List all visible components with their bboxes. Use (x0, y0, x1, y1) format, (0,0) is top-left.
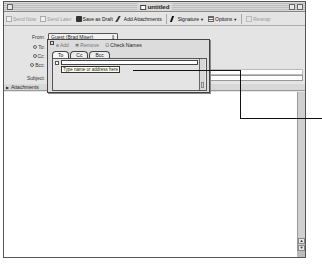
collapse-box[interactable] (297, 4, 303, 10)
rewrap-label: Rewrap (253, 16, 270, 22)
send-icon (6, 16, 12, 22)
options-label: Options (215, 16, 232, 22)
callout-line (240, 70, 241, 119)
window-title: untitled (137, 3, 173, 11)
disclosure-triangle-icon[interactable]: ▶ (6, 84, 9, 91)
add-icon (56, 44, 59, 47)
tab-cc[interactable]: Cc (70, 51, 88, 58)
address-input[interactable] (61, 60, 198, 65)
save-as-draft-label: Save as Draft (83, 16, 113, 22)
title-bar[interactable]: untitled (4, 2, 305, 12)
document-icon (140, 5, 146, 10)
person-icon (33, 54, 37, 58)
address-popup: Add ✖ Remove ⚇ Check Names To Cc Bcc Typ… (47, 39, 210, 93)
address-toolbar: Add ✖ Remove ⚇ Check Names (56, 42, 142, 48)
options-icon (208, 16, 214, 22)
to-label-text: To: (38, 44, 45, 50)
scroll-up-arrow-icon[interactable]: ▲ (298, 238, 305, 244)
callout-line (133, 70, 241, 71)
bcc-label-text: Bcc: (35, 62, 45, 68)
cc-label[interactable]: Cc: (9, 53, 45, 59)
rewrap-icon (246, 16, 252, 22)
remove-button[interactable]: ✖ Remove (75, 42, 99, 48)
person-icon (30, 63, 34, 67)
signature-button[interactable]: Signature ▼ (171, 16, 204, 22)
toolbar-divider (241, 14, 242, 24)
check-names-button[interactable]: ⚇ Check Names (105, 42, 142, 48)
signature-label: Signature (178, 16, 199, 22)
options-button[interactable]: Options ▼ (208, 16, 237, 22)
add-button[interactable]: Add (56, 42, 69, 48)
chevron-down-icon: ▼ (233, 17, 237, 22)
send-now-button[interactable]: Send Now (6, 16, 36, 22)
tab-bcc[interactable]: Bcc (89, 51, 109, 58)
toolbar: Send Now Send Later Save as Draft Add At… (4, 13, 305, 26)
vertical-scrollbar[interactable]: ▲ ▼ (297, 92, 305, 257)
send-later-icon (40, 16, 46, 22)
save-as-draft-button[interactable]: Save as Draft (76, 16, 113, 22)
address-tooltip: Type name or address here (61, 66, 120, 73)
rewrap-button[interactable]: Rewrap (246, 16, 270, 22)
tab-to[interactable]: To (52, 51, 69, 58)
subject-label: Subject: (9, 75, 45, 81)
toolbar-divider (166, 14, 167, 24)
from-label: From: (9, 34, 45, 40)
window-title-text: untitled (148, 3, 170, 11)
add-attachments-label: Add Attachments (124, 16, 162, 22)
remove-label: Remove (80, 42, 99, 48)
attachments-label: Attachments (11, 84, 39, 90)
send-later-button[interactable]: Send Later (40, 16, 71, 22)
resize-grip[interactable] (297, 251, 305, 257)
recipient-list-scrollbar[interactable] (199, 59, 205, 90)
recipient-list: Type name or address here (52, 58, 207, 91)
chevron-down-icon: ▼ (200, 17, 204, 22)
bcc-label[interactable]: Bcc: (9, 62, 45, 68)
message-body[interactable] (4, 92, 297, 257)
popup-close-box[interactable] (50, 41, 54, 45)
callout-line (240, 118, 322, 119)
close-box[interactable] (7, 4, 13, 10)
recipient-tabs: To Cc Bcc (52, 51, 110, 58)
add-label: Add (60, 42, 69, 48)
save-icon (76, 16, 82, 22)
person-icon (33, 45, 37, 49)
recipient-checkbox[interactable] (55, 61, 59, 65)
check-names-label: Check Names (110, 42, 141, 48)
send-now-label: Send Now (13, 16, 36, 22)
send-later-label: Send Later (47, 16, 71, 22)
signature-icon (170, 16, 178, 22)
scroll-grip[interactable] (201, 82, 204, 88)
to-label[interactable]: To: (9, 44, 45, 50)
zoom-box[interactable] (289, 4, 295, 10)
cc-label-text: Cc: (38, 53, 46, 59)
add-attachments-button[interactable]: Add Attachments (117, 16, 162, 22)
